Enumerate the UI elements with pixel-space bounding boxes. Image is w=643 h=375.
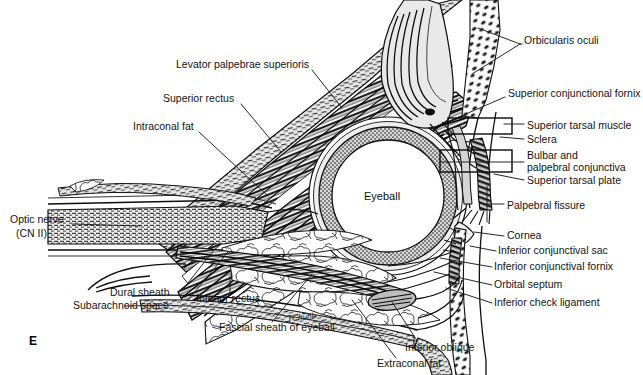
label-orbicularis-oculi: Orbicularis oculi xyxy=(524,34,599,47)
orbit-illustration xyxy=(0,0,643,375)
label-inferior-oblique: Inferior oblique xyxy=(405,341,474,354)
superior-fornix-gland xyxy=(425,109,435,116)
label-fascial-sheath-of-eyeball: Fascial sheath of eyeball xyxy=(219,321,335,334)
label-sclera: Sclera xyxy=(527,133,557,146)
label-optic-nerve-cn2: (CN II) xyxy=(16,227,47,240)
optic-nerve-body xyxy=(48,206,268,244)
label-extraconal-fat: Extraconal fat xyxy=(377,357,441,370)
anatomy-figure-eye-orbit-sagittal: Levator palpebrae superioris Superior re… xyxy=(0,0,643,375)
label-inferior-conjunctival-fornix: Inferior conjunctival fornix xyxy=(494,260,613,273)
label-subarachnoid-space: Subarachnoid space xyxy=(73,299,169,312)
label-superior-rectus: Superior rectus xyxy=(163,92,234,105)
eyeball-globe xyxy=(309,117,467,275)
label-superior-tarsal-muscle: Superior tarsal muscle xyxy=(527,119,631,132)
label-superior-tarsal-plate: Superior tarsal plate xyxy=(527,174,621,187)
label-bulbar-and: Bulbar and xyxy=(527,149,578,162)
label-superior-conjunctional-fornix: Superior conjunctional fornix xyxy=(508,87,641,100)
label-levator-palpebrae-superioris: Levator palpebrae superioris xyxy=(176,58,309,71)
label-cornea: Cornea xyxy=(507,229,541,242)
label-orbital-septum: Orbital septum xyxy=(494,278,562,291)
label-optic-nerve: Optic nerve xyxy=(10,213,64,226)
label-dural-sheath: Dural sheath xyxy=(110,286,170,299)
label-inferior-rectus: Inferior rectus xyxy=(196,292,260,305)
label-inferior-conjunctival-sac: Inferior conjunctival sac xyxy=(498,244,608,257)
label-palpebral-fissure: Palpebral fissure xyxy=(507,199,585,212)
label-intraconal-fat: Intraconal fat xyxy=(133,120,194,133)
label-palpebral-conjunctiva: palpebral conjunctiva xyxy=(527,161,626,174)
label-inferior-check-ligament: Inferior check ligament xyxy=(494,296,600,309)
